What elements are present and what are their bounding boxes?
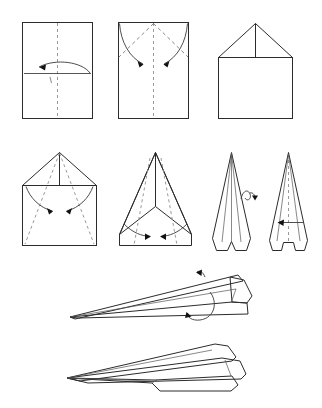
fold-motion-arrow (39, 62, 90, 73)
diagonal-crease-right (60, 153, 95, 244)
fold-motion-arrowhead-left (145, 234, 151, 241)
step-2-fold-top-corners-to-center (119, 23, 189, 119)
diagonal-crease-left (25, 153, 60, 244)
crease-tick-mark (50, 77, 52, 83)
fold-motion-arrowhead-left (138, 61, 144, 68)
step-7-fold-in-half-along-center (270, 153, 308, 251)
fold-motion-arrowhead-left (47, 208, 53, 215)
left-folded-edge (120, 153, 156, 235)
turn-over-arrowhead (252, 196, 258, 201)
turn-over-loop-arrow (241, 191, 250, 200)
right-folded-edge (156, 153, 192, 235)
tail-panel (230, 277, 252, 303)
step-5-fold-point-flaps-inward (120, 153, 192, 246)
fold-motion-arc-left (26, 187, 53, 212)
tail-edge-line (225, 360, 231, 376)
step-3-house-shape-result (219, 24, 293, 119)
left-inner-edge (222, 153, 232, 242)
step-6-dart-with-notch (213, 153, 259, 251)
step-1-fold-sheet-in-half-lengthwise (23, 23, 93, 119)
paper-body-outline (23, 186, 97, 246)
instruction-illustration (0, 0, 322, 408)
near-wing-panel (67, 376, 238, 391)
diagonal-crease-left (134, 158, 150, 245)
step-8-fold-down-wings-side-view (70, 270, 252, 321)
fold-motion-arc-right (67, 187, 94, 212)
step-9-finished-paper-airplane (67, 344, 246, 391)
fold-motion-arc-left (120, 24, 144, 65)
paper-body-outline (219, 58, 293, 119)
step-4-fold-angled-edges-to-center (23, 153, 97, 246)
folding-instructions-diagram (0, 0, 322, 408)
fold-motion-arrowhead-right (66, 208, 72, 215)
diagonal-crease-right (161, 158, 177, 245)
diagonal-crease-right (154, 24, 189, 58)
fold-motion-arrowhead-right (164, 61, 170, 68)
wing-fold-arrowhead-top (196, 270, 202, 277)
fold-direction-arrowhead (278, 220, 285, 227)
far-wing-panel (67, 344, 236, 381)
fold-motion-arrowhead-right (160, 234, 166, 241)
fold-motion-arc-right (164, 24, 188, 65)
diagonal-crease-left (119, 24, 154, 58)
nose-ridge-line (67, 350, 212, 378)
right-inner-edge (232, 153, 242, 242)
